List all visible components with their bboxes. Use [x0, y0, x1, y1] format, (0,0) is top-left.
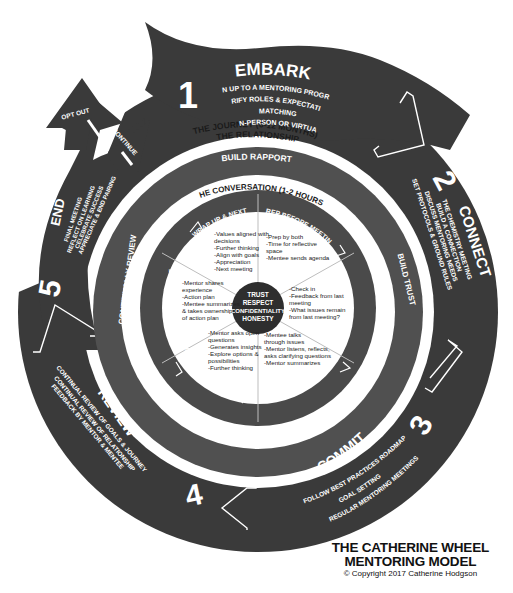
svg-text:-Generates insights: -Generates insights [208, 343, 262, 350]
svg-text:-Mentee talks: -Mentee talks [264, 331, 301, 338]
svg-text:-Explore options &: -Explore options & [208, 350, 259, 357]
svg-text:asks clarifying questions: asks clarifying questions [264, 352, 331, 359]
svg-text:-Align with goals: -Align with goals [214, 251, 259, 258]
core-respect: RESPECT [243, 299, 274, 306]
svg-text:-Prep by both: -Prep by both [266, 233, 304, 240]
core-confidentiality: CONFIDENTIALITY [231, 308, 285, 314]
svg-text:-What issues remain: -What issues remain [289, 306, 346, 313]
svg-text:-Next meeting: -Next meeting [214, 265, 253, 272]
catherine-wheel-diagram: TRUST RESPECT CONFIDENTIALITY HONESTY TH… [0, 0, 513, 593]
svg-text:possibilities: possibilities [208, 357, 240, 364]
svg-text:-Feedback from last: -Feedback from last [289, 292, 344, 299]
svg-text:& takes ownership: & takes ownership [182, 307, 233, 314]
svg-text:-Further thinking: -Further thinking [214, 244, 260, 251]
model-title-line-2: MENTORING MODEL [332, 555, 489, 569]
svg-text:-Action plan: -Action plan [182, 293, 215, 300]
copyright: © Copyright 2017 Catherine Hodgson [332, 569, 489, 579]
stage-number-1: 1 [178, 75, 198, 116]
svg-text:-Appreciation: -Appreciation [214, 258, 251, 265]
svg-text:-Mentor shares: -Mentor shares [182, 279, 224, 286]
svg-text:-Mentee summarizes: -Mentee summarizes [182, 300, 240, 307]
core-honesty: HONESTY [242, 315, 274, 322]
svg-text:-Time for reflective: -Time for reflective [266, 240, 318, 247]
svg-text:-Further thinking: -Further thinking [208, 364, 254, 371]
svg-text:-Mentee sends agenda: -Mentee sends agenda [266, 254, 330, 261]
svg-text:from last meeting?: from last meeting? [289, 313, 340, 320]
footer: THE CATHERINE WHEEL MENTORING MODEL © Co… [332, 541, 489, 579]
svg-text:decisions: decisions [214, 237, 240, 244]
svg-text:BUILD CONFIDENCE: BUILD CONFIDENCE [168, 269, 175, 332]
svg-text:through issues: through issues [264, 338, 304, 345]
svg-text:-Mentor listens, reflects,: -Mentor listens, reflects, [264, 345, 330, 352]
svg-text:space: space [266, 247, 283, 254]
svg-text:of action plan: of action plan [182, 314, 219, 321]
svg-text:-Check in: -Check in [289, 285, 316, 292]
core-trust: TRUST [247, 291, 269, 298]
svg-text:-Mentor summarizes: -Mentor summarizes [264, 359, 320, 366]
svg-text:-Mentor asks open: -Mentor asks open [208, 329, 260, 336]
svg-text:-Values aligned with: -Values aligned with [214, 230, 269, 237]
svg-text:meeting: meeting [289, 299, 312, 306]
model-title-line-1: THE CATHERINE WHEEL [332, 541, 489, 555]
svg-text:questions: questions [208, 336, 235, 343]
svg-text:experience: experience [182, 286, 213, 293]
